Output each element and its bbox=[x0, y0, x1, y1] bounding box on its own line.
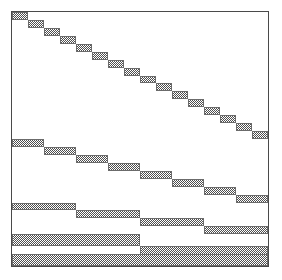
matrix-block bbox=[44, 28, 60, 36]
matrix-block bbox=[204, 226, 268, 234]
matrix-block bbox=[12, 254, 268, 266]
matrix-block bbox=[76, 44, 92, 52]
matrix-block bbox=[12, 12, 28, 20]
matrix-block bbox=[92, 52, 108, 60]
matrix-block bbox=[188, 99, 204, 107]
matrix-block bbox=[140, 76, 156, 84]
matrix-block bbox=[252, 131, 268, 139]
matrix-block bbox=[236, 123, 252, 131]
matrix-block bbox=[12, 234, 140, 246]
matrix-block bbox=[12, 203, 76, 211]
matrix-block bbox=[28, 20, 44, 28]
matrix-plot-canvas bbox=[12, 12, 268, 266]
matrix-block bbox=[140, 171, 172, 179]
matrix-block bbox=[172, 91, 188, 99]
matrix-block bbox=[108, 60, 124, 68]
matrix-block bbox=[140, 218, 204, 226]
matrix-block bbox=[220, 115, 236, 123]
matrix-block bbox=[108, 163, 140, 171]
matrix-block bbox=[12, 139, 44, 147]
figure-root bbox=[0, 0, 282, 280]
matrix-block bbox=[236, 195, 268, 203]
matrix-block bbox=[60, 36, 76, 44]
matrix-block bbox=[44, 147, 76, 155]
matrix-block bbox=[204, 187, 236, 195]
matrix-block bbox=[204, 107, 220, 115]
matrix-block bbox=[172, 179, 204, 187]
matrix-plot-frame bbox=[11, 11, 269, 267]
matrix-block bbox=[76, 210, 140, 218]
matrix-block bbox=[156, 83, 172, 91]
matrix-block bbox=[76, 155, 108, 163]
matrix-block bbox=[124, 68, 140, 76]
